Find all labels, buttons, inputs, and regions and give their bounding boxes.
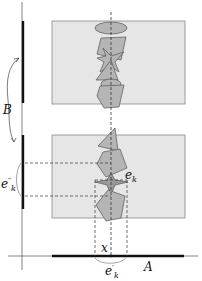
label-ek: ek xyxy=(125,169,137,184)
curved-arrow-B xyxy=(7,58,19,142)
point-x xyxy=(110,255,113,258)
label-ek-double-prime: e″k xyxy=(1,177,16,193)
projection-diagram xyxy=(0,0,202,281)
label-ek-prime: e′k xyxy=(105,264,119,280)
label-A: A xyxy=(144,261,153,273)
arrowhead-down xyxy=(11,138,16,142)
bracket-ek-double-prime xyxy=(17,163,22,196)
label-x: x xyxy=(101,242,108,254)
label-B: B xyxy=(3,104,12,116)
bracket-ek-prime xyxy=(95,258,126,263)
